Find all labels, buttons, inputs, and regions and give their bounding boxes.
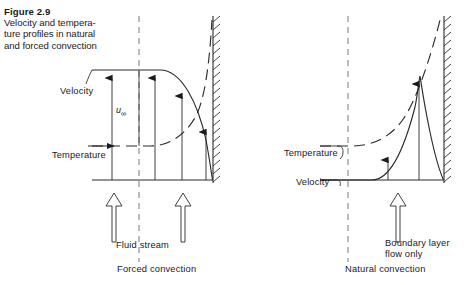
boundary-layer-arrow	[390, 193, 406, 242]
temperature-curve-forced	[92, 20, 212, 146]
wall-forced	[213, 16, 220, 183]
label-temperature-forced: Temperature	[52, 150, 106, 160]
wall-hatching-forced	[213, 16, 220, 182]
velocity-leader-forced	[86, 70, 92, 84]
panel-natural-convection	[320, 16, 451, 262]
wall-natural	[444, 16, 451, 183]
wall-hatching-natural	[444, 16, 451, 182]
label-fluid-stream: Fluid stream	[116, 240, 169, 250]
fluid-stream-arrows	[106, 193, 191, 242]
label-freestream-velocity: u∞	[116, 105, 126, 118]
label-velocity-natural: Velocity	[296, 177, 329, 187]
velocity-arrows-forced	[112, 78, 206, 180]
temperature-curve-natural	[320, 20, 440, 146]
title-forced-convection: Forced convection	[117, 264, 196, 274]
velocity-curve-forced	[92, 70, 213, 180]
velocity-curve-natural	[320, 76, 444, 180]
figure-container: Figure 2.9 Velocity and tempera- ture pr…	[0, 0, 469, 285]
label-boundary-layer: Boundary layerflow only	[385, 238, 450, 260]
label-velocity-forced: Velocity	[60, 86, 93, 96]
title-natural-convection: Natural convection	[345, 264, 426, 274]
panel-forced-convection	[86, 16, 220, 262]
label-temperature-natural: Temperature	[284, 148, 338, 158]
